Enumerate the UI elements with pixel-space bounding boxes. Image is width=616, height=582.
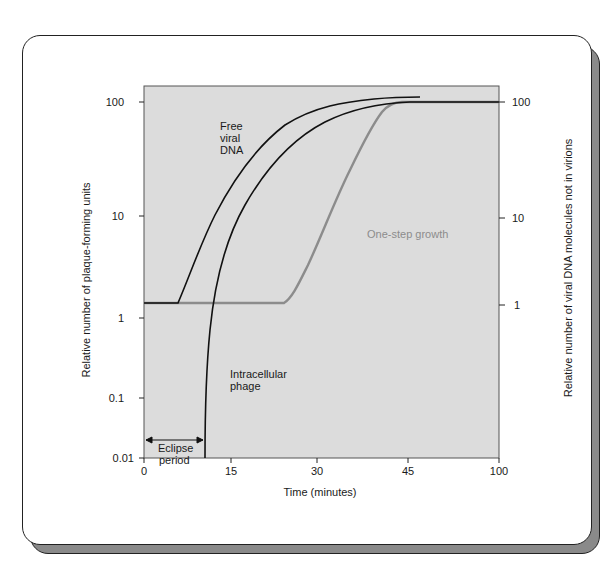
y-left-tick-10: 10 <box>112 210 124 222</box>
label-eclipse-1: Eclipse <box>158 442 193 454</box>
y-right-tick-1: 1 <box>514 299 520 311</box>
left-y-axis <box>139 102 144 458</box>
x-tick-30: 30 <box>311 465 323 477</box>
x-tick-100: 100 <box>490 465 508 477</box>
label-one-step-growth: One-step growth <box>367 228 448 240</box>
label-free-3: DNA <box>220 144 244 156</box>
y-left-tick-1: 1 <box>118 312 124 324</box>
y-left-tick-100: 100 <box>106 96 124 108</box>
label-free-2: viral <box>220 132 240 144</box>
y-left-tick-0.01: 0.01 <box>113 452 134 464</box>
x-tick-15: 15 <box>225 465 237 477</box>
chart: 100 10 1 0.1 0.01 100 10 1 0 15 30 45 10… <box>0 0 616 582</box>
plot-area <box>144 86 499 458</box>
x-axis-title: Time (minutes) <box>284 486 357 498</box>
label-intracellular-1: Intracellular <box>230 368 287 380</box>
y-left-tick-0.1: 0.1 <box>109 392 124 404</box>
label-free-1: Free <box>220 120 243 132</box>
y-axis-title-left: Relative number of plaque-forming units <box>80 182 92 378</box>
y-axis-title-right: Relative number of viral DNA molecules n… <box>562 138 574 397</box>
y-right-tick-10: 10 <box>512 212 524 224</box>
x-tick-0: 0 <box>141 465 147 477</box>
right-y-axis <box>499 102 505 305</box>
x-tick-45: 45 <box>402 465 414 477</box>
y-right-tick-100: 100 <box>512 96 530 108</box>
label-eclipse-2: period <box>159 454 190 466</box>
x-axis <box>144 458 499 463</box>
label-intracellular-2: phage <box>230 380 261 392</box>
